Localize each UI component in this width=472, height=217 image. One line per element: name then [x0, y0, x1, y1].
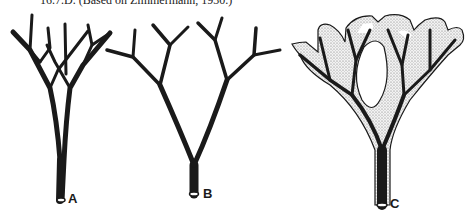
figure-b-branching	[107, 18, 280, 196]
figure-label-a: A	[68, 191, 77, 206]
figure-c-webbed-lamina	[292, 15, 464, 207]
telome-diagrams	[0, 0, 472, 217]
figure-label-b: B	[203, 186, 212, 201]
figure-a-branching	[13, 15, 110, 202]
figure-label-c: C	[390, 196, 399, 211]
